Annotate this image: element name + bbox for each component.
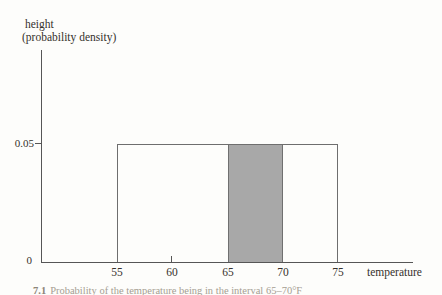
x-tick-label-65: 65 [213,266,243,278]
x-axis [41,262,413,263]
density-rectangle [117,144,338,262]
x-tick-label-75: 75 [323,266,353,278]
shaded-interval-65-70 [228,145,283,262]
y-axis [41,50,42,262]
figure-caption-number: 7.1 [33,285,46,295]
x-tick-label-70: 70 [268,266,298,278]
y-axis-title-line1: height [25,18,116,31]
figure-caption-text: Probability of the temperature being in … [50,285,302,295]
y-axis-title: height (probability density) [22,18,116,44]
y-tick-label-005: 0.05 [6,137,34,149]
y-tick-label-0: 0 [22,254,32,266]
y-axis-title-line2: (probability density) [22,31,116,44]
x-tick-label-55: 55 [102,266,132,278]
uniform-density-figure: height (probability density) 0.05 0 55 6… [0,0,442,295]
figure-caption: 7.1Probability of the temperature being … [33,285,302,295]
x-axis-label: temperature [367,266,422,278]
x-tick-mark-60 [171,256,172,262]
y-tick-mark-005 [35,143,41,144]
x-tick-label-60: 60 [157,266,187,278]
